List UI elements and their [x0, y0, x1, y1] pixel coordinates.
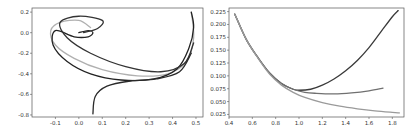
x-tick-label: 0.0	[74, 120, 83, 126]
x-tick-label: 1.0	[295, 120, 304, 126]
x-tick-label: 0.4	[225, 120, 234, 126]
x-tick-label: 0.1	[98, 120, 107, 126]
left-x-axis: -0.10.00.10.20.30.40.5	[50, 117, 201, 126]
y-tick-label: 0.075	[210, 86, 226, 92]
chart-left-trajectories: 0.20.0-0.2-0.4-0.6-0.8 -0.10.00.10.20.30…	[18, 8, 203, 126]
x-tick-label: 1.2	[318, 120, 327, 126]
x-tick-label: 1.6	[365, 120, 374, 126]
y-tick-label: -0.8	[18, 112, 29, 118]
y-tick-label: 0.0	[20, 30, 29, 36]
y-tick-label: -0.2	[18, 50, 29, 56]
y-tick-label: 0.225	[210, 9, 226, 15]
chart-right-curves: 0.2250.2000.1750.1500.1250.1000.0750.050…	[210, 8, 404, 126]
plot-area-left	[32, 8, 203, 117]
x-tick-label: 0.8	[271, 120, 280, 126]
right-y-axis: 0.2250.2000.1750.1500.1250.1000.0750.050…	[210, 9, 229, 118]
y-tick-label: -0.6	[18, 91, 29, 97]
x-tick-label: 0.6	[248, 120, 257, 126]
y-tick-label: 0.200	[210, 21, 226, 27]
y-tick-label: 0.100	[210, 73, 226, 79]
y-tick-label: 0.150	[210, 47, 226, 53]
x-tick-label: 0.2	[121, 120, 130, 126]
x-tick-label: 0.4	[168, 120, 177, 126]
y-tick-label: 0.125	[210, 60, 226, 66]
x-tick-label: -0.1	[50, 120, 61, 126]
y-tick-label: -0.4	[18, 71, 29, 77]
y-tick-label: 0.025	[210, 111, 226, 117]
y-tick-label: 0.2	[20, 9, 29, 15]
y-tick-label: 0.050	[210, 99, 226, 105]
figure: 0.20.0-0.2-0.4-0.6-0.8 -0.10.00.10.20.30…	[0, 0, 409, 135]
x-tick-label: 0.3	[145, 120, 154, 126]
y-tick-label: 0.175	[210, 34, 226, 40]
x-tick-label: 1.4	[341, 120, 350, 126]
x-tick-label: 1.8	[388, 120, 397, 126]
left-y-axis: 0.20.0-0.2-0.4-0.6-0.8	[18, 9, 32, 118]
right-x-axis: 0.40.60.81.01.21.41.61.8	[225, 117, 398, 126]
x-tick-label: 0.5	[192, 120, 201, 126]
